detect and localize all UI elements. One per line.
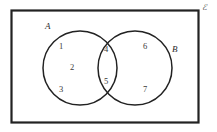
venn-diagram: ℰ A B 1 2 3 4 5 6 7: [0, 0, 217, 132]
set-a-circle: [43, 31, 117, 105]
region-label-5: 5: [104, 77, 108, 86]
region-label-1: 1: [59, 42, 63, 51]
region-label-7: 7: [143, 85, 147, 94]
region-label-2: 2: [70, 63, 74, 72]
set-b-circle: [98, 31, 172, 105]
universal-set-label: ℰ: [202, 4, 207, 12]
region-label-6: 6: [143, 42, 147, 51]
universal-set-rectangle: [12, 11, 199, 123]
set-a-label: A: [45, 22, 51, 31]
set-b-label: B: [172, 45, 178, 54]
region-label-4: 4: [104, 45, 108, 54]
region-label-3: 3: [59, 85, 63, 94]
venn-diagram-canvas: [0, 0, 217, 132]
